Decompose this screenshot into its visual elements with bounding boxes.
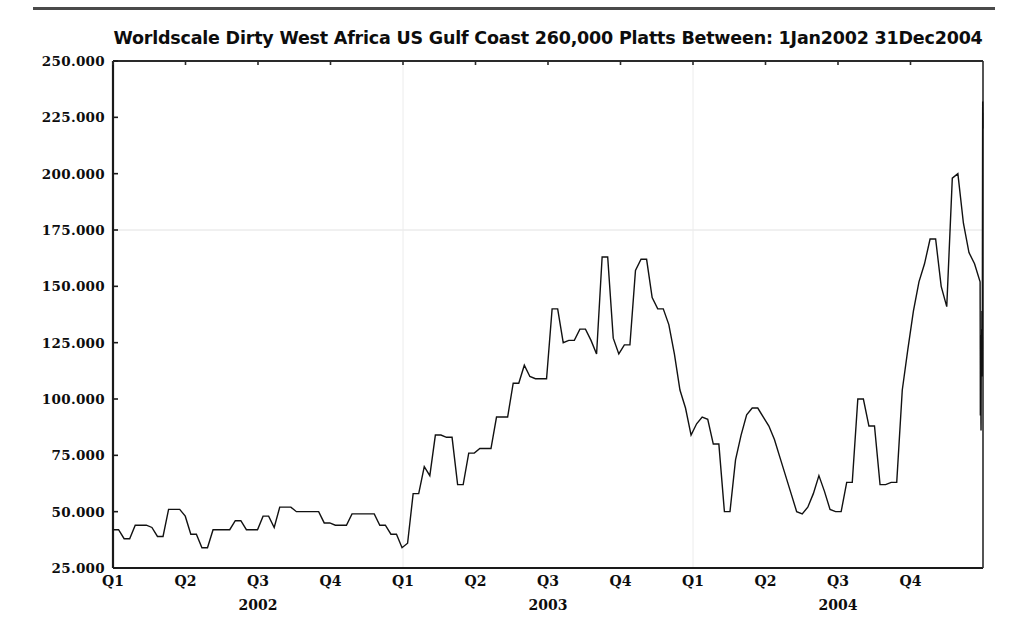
- x-tick-label: Q4: [598, 573, 644, 589]
- axis-frame: [113, 61, 983, 568]
- x-tick-label: Q2: [163, 573, 209, 589]
- y-tick-label: 150.000: [5, 278, 105, 294]
- y-tick-label: 175.000: [5, 222, 105, 238]
- x-tick-label: Q3: [525, 573, 571, 589]
- gridlines-group: [113, 61, 983, 568]
- x-tick-label: Q4: [308, 573, 354, 589]
- x-year-label: 2004: [803, 597, 873, 613]
- x-year-label: 2003: [513, 597, 583, 613]
- y-tick-label: 250.000: [5, 53, 105, 69]
- y-tick-label: 100.000: [5, 391, 105, 407]
- plot-area: [0, 0, 1021, 636]
- chart-svg: [0, 0, 1021, 636]
- chart-page: Worldscale Dirty West Africa US Gulf Coa…: [0, 0, 1021, 636]
- x-tick-label: Q1: [670, 573, 716, 589]
- x-year-label: 2002: [223, 597, 293, 613]
- y-tick-label: 200.000: [5, 166, 105, 182]
- x-tick-label: Q2: [453, 573, 499, 589]
- x-tick-label: Q1: [380, 573, 426, 589]
- y-tick-label: 125.000: [5, 335, 105, 351]
- x-tick-label: Q2: [743, 573, 789, 589]
- x-tick-label: Q3: [815, 573, 861, 589]
- x-tick-label: Q4: [888, 573, 934, 589]
- data-series-line: [113, 102, 983, 548]
- x-tick-label: Q1: [90, 573, 136, 589]
- y-tick-label: 225.000: [5, 109, 105, 125]
- y-tick-label: 50.000: [5, 504, 105, 520]
- x-tick-label: Q3: [235, 573, 281, 589]
- y-tick-label: 75.000: [5, 447, 105, 463]
